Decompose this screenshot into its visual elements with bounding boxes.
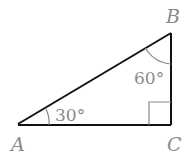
vertex-label-c: C — [167, 133, 182, 155]
angle-arc-b — [146, 48, 172, 64]
vertex-label-b: B — [165, 5, 180, 27]
vertex-label-a: A — [9, 133, 25, 155]
right-angle-marker — [149, 102, 171, 125]
triangle-diagram: 30° 60° A B C — [0, 0, 191, 159]
angle-label-a: 30° — [55, 105, 85, 125]
angle-label-b: 60° — [134, 68, 164, 88]
angle-arc-a — [46, 108, 50, 125]
